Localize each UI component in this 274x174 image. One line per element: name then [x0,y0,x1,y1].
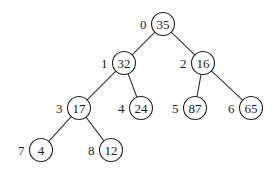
tree-node: 47 [18,139,53,162]
tree-edge [132,32,155,55]
tree-node: 173 [56,97,91,120]
node-value: 17 [73,101,87,116]
node-index-label: 4 [118,101,125,116]
tree-edge [171,32,195,55]
node-index-label: 0 [140,17,147,32]
node-index-label: 8 [88,143,95,158]
node-value: 35 [157,17,170,32]
node-value: 32 [118,56,131,71]
node-value: 12 [105,143,118,158]
tree-edge [49,117,72,142]
tree-edge [128,74,137,97]
node-index-label: 6 [228,101,235,116]
node-index-label: 7 [18,143,25,158]
node-index-label: 5 [172,101,179,116]
node-value: 4 [38,143,45,158]
tree-node: 162 [180,52,215,75]
tree-edge [197,74,201,96]
node-value: 87 [189,101,203,116]
tree-edges [49,32,243,141]
tree-node: 321 [101,52,136,75]
tree-edge [86,117,104,141]
node-value: 16 [197,56,211,71]
node-index-label: 2 [180,56,187,71]
tree-node: 128 [88,139,123,162]
node-value: 24 [135,101,149,116]
tree-node: 350 [140,13,175,36]
tree-edge [211,71,242,100]
node-index-label: 3 [56,101,63,116]
tree-node: 656 [228,97,263,120]
tree-edge [87,71,116,100]
tree-node: 244 [118,97,153,120]
node-value: 65 [245,101,258,116]
binary-tree-diagram: 35032116217324487565647128 [0,0,274,174]
tree-node: 875 [172,97,207,120]
node-index-label: 1 [101,56,108,71]
tree-nodes: 35032116217324487565647128 [18,13,263,162]
